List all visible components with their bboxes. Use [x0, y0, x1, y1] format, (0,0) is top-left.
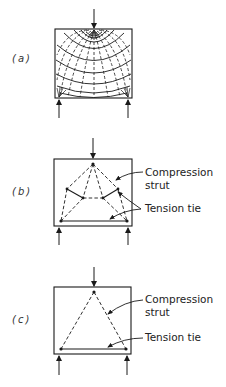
strut-and-tie-diagram — [0, 0, 226, 387]
panel-b-tension-leader-lower — [110, 209, 141, 219]
panel-c-nodes — [59, 290, 127, 350]
panel-c-tension-leader — [108, 338, 143, 347]
panel-a — [55, 9, 132, 118]
panel-c-strut-text: strut — [145, 306, 213, 319]
panel-c-compression-text: Compression — [145, 293, 213, 306]
panel-c-compression-callout: Compression strut — [145, 293, 213, 319]
panel-b-compression-leader — [116, 172, 143, 180]
panel-b-tension-ties — [61, 189, 127, 221]
panel-c-tension-callout: Tension tie — [145, 331, 201, 344]
panel-b-tension-callout: Tension tie — [145, 202, 201, 215]
panel-c — [54, 267, 143, 375]
panel-b-compression-struts — [61, 164, 127, 221]
panel-b-strut-text: strut — [145, 179, 213, 192]
panel-c-compression-struts — [61, 292, 126, 349]
panel-c-label: (c) — [12, 314, 31, 325]
panel-a-label: (a) — [12, 53, 32, 64]
panel-b — [54, 138, 143, 245]
panel-a-dashed-trajectories — [57, 30, 130, 97]
panel-b-compression-callout: Compression strut — [145, 166, 213, 192]
panel-c-compression-leader — [108, 300, 143, 314]
panel-c-member-outline — [54, 287, 131, 354]
panel-b-compression-text: Compression — [145, 166, 213, 179]
panel-a-support-fans — [57, 87, 130, 97]
panel-a-solid-trajectories — [56, 30, 131, 98]
panel-b-label: (b) — [12, 186, 32, 197]
